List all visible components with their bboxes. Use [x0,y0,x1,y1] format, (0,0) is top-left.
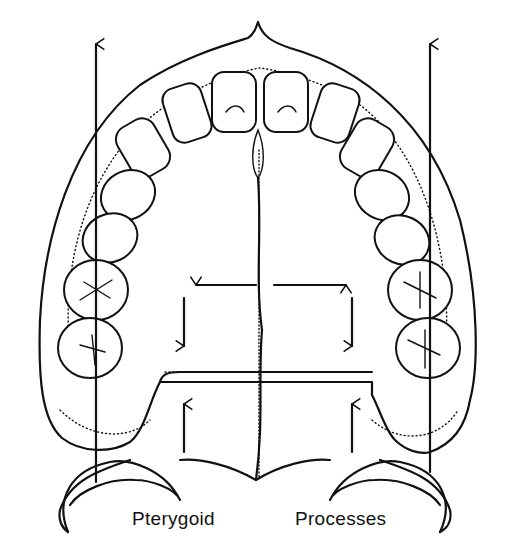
right-posterior-teeth [346,160,460,378]
incisors [159,72,362,146]
pterygoid-processes [59,460,450,532]
label-pterygoid: Pterygoid [132,508,215,530]
diagram-canvas [0,0,509,556]
left-posterior-teeth [58,160,164,378]
transverse-suture [160,372,372,382]
label-processes: Processes [295,508,386,530]
maxillary-arch-diagram: Pterygoid Processes [0,0,509,556]
midpalatal-suture [253,130,264,480]
